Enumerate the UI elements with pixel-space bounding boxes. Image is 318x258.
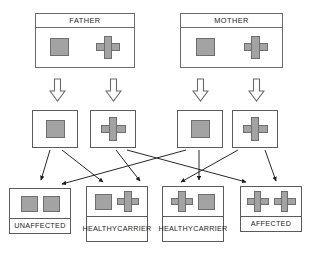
allele-square	[198, 194, 215, 210]
parent-box-mother: MOTHER	[180, 13, 283, 68]
connector-link-3	[116, 150, 140, 181]
block-arrow-down-1	[49, 78, 66, 102]
allele-square	[95, 194, 112, 210]
allele-cross	[274, 191, 296, 212]
gamete-box-mother-2	[232, 110, 278, 148]
offspring-label-3-line1: HEALTHY	[158, 224, 193, 233]
offspring-alleles-1	[10, 189, 70, 219]
allele-cross	[247, 191, 269, 212]
parent-alleles-mother	[181, 27, 282, 67]
gamete-box-father-1	[32, 110, 78, 148]
block-arrow-down-4	[248, 78, 265, 102]
offspring-box-3: HEALTHY CARRIER	[162, 186, 224, 242]
connector-link-7	[181, 150, 238, 182]
connector-link-4	[127, 150, 246, 182]
connector-link-2	[62, 150, 103, 182]
allele-square	[43, 196, 60, 212]
block-arrow-down-3	[192, 78, 209, 102]
connector-link-8	[265, 150, 276, 181]
block-arrow-down-2	[105, 78, 122, 102]
allele-square	[191, 120, 210, 138]
offspring-label-2-line1: HEALTHY	[82, 224, 117, 233]
allele-square	[50, 38, 69, 56]
allele-cross	[243, 117, 268, 141]
parent-alleles-father	[36, 27, 134, 67]
allele-cross	[96, 36, 120, 59]
allele-cross	[117, 191, 139, 212]
offspring-box-2: HEALTHY CARRIER	[86, 186, 148, 242]
offspring-label-3-line2: CARRIER	[193, 224, 227, 233]
offspring-alleles-2	[87, 187, 147, 217]
gamete-box-mother-1	[177, 110, 223, 148]
inheritance-diagram: FATHER MOTHER	[0, 0, 318, 258]
parent-label-father: FATHER	[36, 14, 134, 28]
offspring-alleles-4	[241, 187, 301, 217]
offspring-alleles-3	[163, 187, 223, 217]
parent-label-mother: MOTHER	[181, 14, 282, 28]
allele-cross	[171, 191, 193, 212]
offspring-label-1: UNAFFECTED	[10, 219, 70, 233]
connector-link-5	[62, 150, 186, 184]
parent-box-father: FATHER	[35, 13, 135, 68]
offspring-label-2-line2: CARRIER	[117, 224, 151, 233]
allele-cross	[101, 117, 126, 141]
connector-link-1	[41, 150, 50, 180]
allele-square	[46, 120, 65, 138]
gamete-box-father-2	[90, 110, 136, 148]
allele-square	[196, 38, 215, 56]
offspring-label-3: HEALTHY CARRIER	[163, 217, 223, 241]
allele-square	[21, 196, 38, 212]
allele-cross	[244, 36, 268, 59]
offspring-box-4: AFFECTED	[240, 186, 302, 232]
offspring-box-1: UNAFFECTED	[9, 188, 71, 234]
offspring-label-4: AFFECTED	[241, 217, 301, 231]
offspring-label-2: HEALTHY CARRIER	[87, 217, 147, 241]
